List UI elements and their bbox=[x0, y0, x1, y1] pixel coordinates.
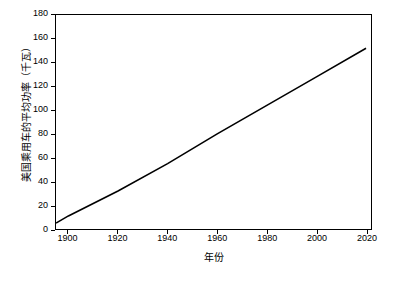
y-tick-mark bbox=[51, 110, 55, 111]
x-tick-label: 2020 bbox=[347, 234, 387, 243]
x-tick-mark bbox=[67, 230, 68, 234]
plot-area bbox=[55, 14, 372, 230]
x-tick-label: 1940 bbox=[147, 234, 187, 243]
data-line bbox=[56, 15, 371, 229]
x-tick-label: 1900 bbox=[47, 234, 87, 243]
y-tick-mark bbox=[51, 14, 55, 15]
x-tick-label: 1980 bbox=[247, 234, 287, 243]
x-tick-label: 2000 bbox=[297, 234, 337, 243]
y-tick-mark bbox=[51, 38, 55, 39]
x-tick-mark bbox=[317, 230, 318, 234]
y-tick-mark bbox=[51, 62, 55, 63]
chart-container: 020406080100120140160180 190019201940196… bbox=[0, 0, 401, 286]
x-axis-title: 年份 bbox=[55, 252, 372, 264]
series-line-path bbox=[56, 48, 366, 223]
y-tick-mark bbox=[51, 134, 55, 135]
x-tick-label: 1960 bbox=[197, 234, 237, 243]
y-tick-mark bbox=[51, 182, 55, 183]
x-tick-mark bbox=[217, 230, 218, 234]
x-tick-mark bbox=[267, 230, 268, 234]
x-tick-mark bbox=[367, 230, 368, 234]
x-tick-mark bbox=[117, 230, 118, 234]
y-tick-mark bbox=[51, 206, 55, 207]
x-tick-mark bbox=[167, 230, 168, 234]
y-tick-mark bbox=[51, 230, 55, 231]
y-tick-mark bbox=[51, 158, 55, 159]
y-axis-title: 美国乘用车的平均功率（千瓦） bbox=[21, 0, 33, 227]
x-tick-label: 1920 bbox=[97, 234, 137, 243]
y-tick-mark bbox=[51, 86, 55, 87]
